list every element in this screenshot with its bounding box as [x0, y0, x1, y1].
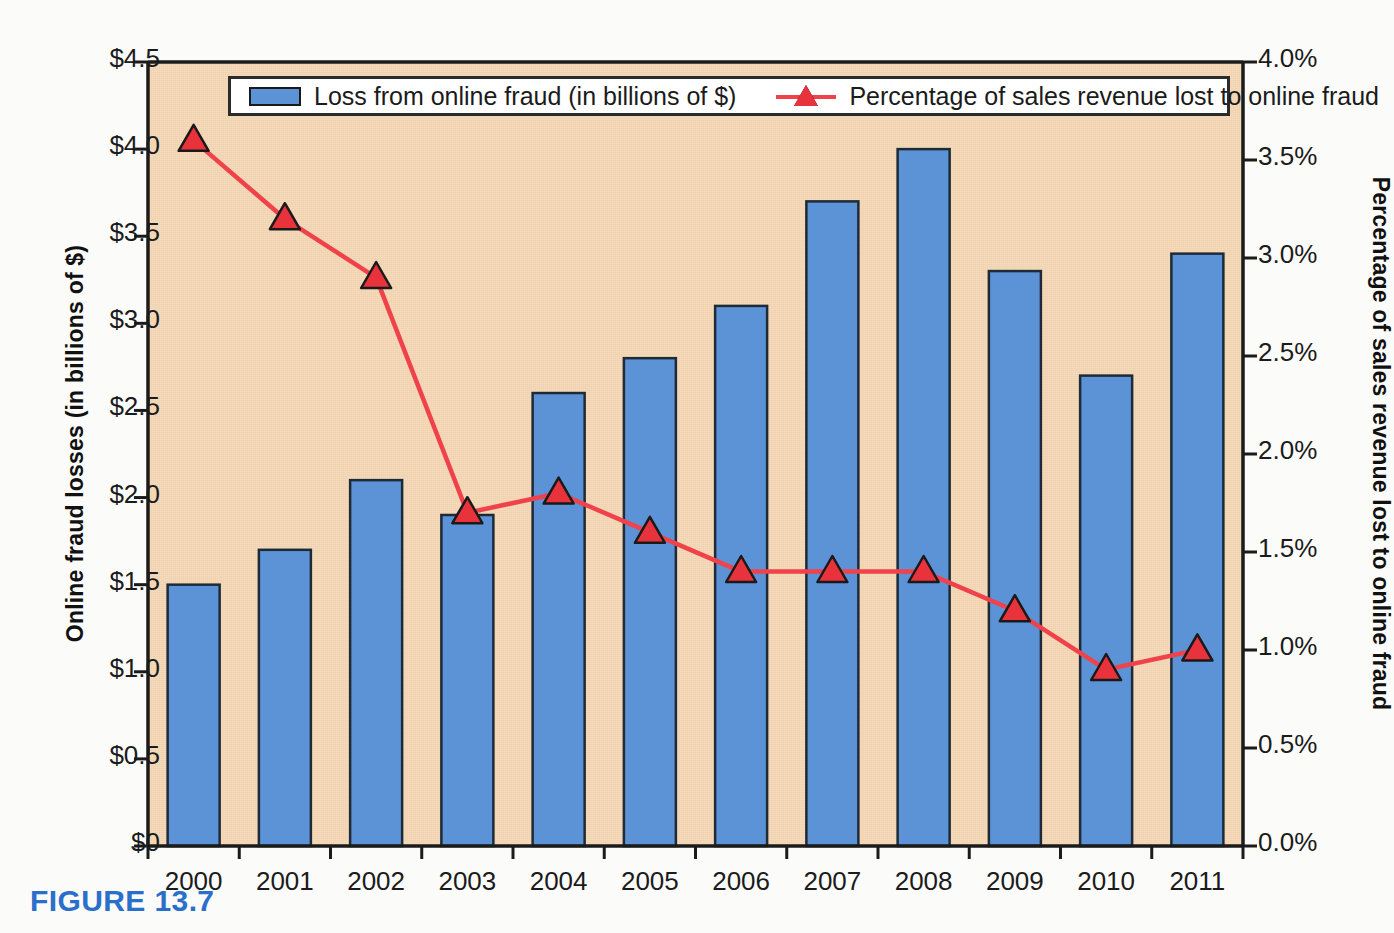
- bar: [350, 480, 402, 846]
- trend-line: [194, 140, 1198, 669]
- right-axis-tick-label: 1.0%: [1258, 633, 1317, 659]
- legend-item-bar-series: Loss from online fraud (in billions of $…: [249, 82, 736, 111]
- legend-label-line-series: Percentage of sales revenue lost to onli…: [849, 82, 1379, 111]
- left-axis-tick-label: $3.5: [109, 219, 160, 245]
- left-axis-tick-label: $2.5: [109, 393, 160, 419]
- bar: [168, 585, 220, 846]
- bar: [259, 550, 311, 846]
- left-axis-tick-label: $3.0: [109, 306, 160, 332]
- right-axis-tick-label: 4.0%: [1258, 45, 1317, 71]
- left-axis-tick-label: $4.5: [109, 45, 160, 71]
- triangle-line-swatch-icon: [776, 85, 836, 107]
- x-axis-tick-label: 2011: [1137, 868, 1257, 894]
- bar: [441, 515, 493, 846]
- line-marker-triangle: [179, 125, 209, 151]
- bar: [989, 271, 1041, 846]
- left-axis-tick-label: $1.5: [109, 568, 160, 594]
- left-axis-tick-label: $4.0: [109, 132, 160, 158]
- left-axis-tick-label: $0.5: [109, 742, 160, 768]
- left-axis-tick-label: $1.0: [109, 655, 160, 681]
- right-axis-tick-label: 1.5%: [1258, 535, 1317, 561]
- right-axis-tick-label: 2.0%: [1258, 437, 1317, 463]
- bar-swatch-icon: [249, 87, 301, 106]
- chart-legend: Loss from online fraud (in billions of $…: [228, 76, 1230, 116]
- line-marker-triangle: [361, 262, 391, 288]
- bar: [624, 358, 676, 846]
- left-axis-tick-label: $2.0: [109, 481, 160, 507]
- left-axis-title: Online fraud losses (in billions of $): [62, 94, 89, 794]
- right-axis-title: Percentage of sales revenue lost to onli…: [1367, 94, 1394, 794]
- bar: [533, 393, 585, 846]
- figure-caption: FIGURE 13.7: [30, 884, 214, 918]
- bar: [1171, 254, 1223, 846]
- chart-canvas: [0, 0, 1394, 933]
- right-axis-tick-label: 0.5%: [1258, 731, 1317, 757]
- legend-label-bar-series: Loss from online fraud (in billions of $…: [314, 82, 736, 111]
- right-axis-tick-label: 3.5%: [1258, 143, 1317, 169]
- bar: [806, 201, 858, 846]
- figure-container: $0$0.5$1.0$1.5$2.0$2.5$3.0$3.5$4.0$4.5 0…: [0, 0, 1394, 933]
- right-axis-tick-label: 0.0%: [1258, 829, 1317, 855]
- bar-series: [168, 149, 1224, 846]
- bar: [898, 149, 950, 846]
- right-axis-tick-label: 3.0%: [1258, 241, 1317, 267]
- legend-item-line-series: Percentage of sales revenue lost to onli…: [776, 82, 1379, 111]
- line-series: [194, 140, 1198, 669]
- right-axis-tick-label: 2.5%: [1258, 339, 1317, 365]
- bar: [1080, 376, 1132, 846]
- line-markers: [179, 125, 1213, 680]
- left-axis-tick-label: $0: [131, 829, 160, 855]
